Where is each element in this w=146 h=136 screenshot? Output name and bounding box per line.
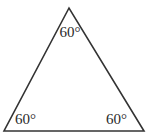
angle-label-top: 60°: [60, 24, 81, 40]
angle-label-bottom-left: 60°: [15, 111, 36, 127]
triangle-diagram: 60° 60° 60°: [0, 0, 146, 136]
angle-label-bottom-right: 60°: [106, 111, 127, 127]
